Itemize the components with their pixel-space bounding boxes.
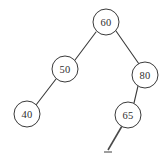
node-label-80: 80 [140, 70, 151, 81]
tree-canvas: 60 50 80 40 65 [0, 0, 167, 163]
edge-80-to-65 [134, 86, 138, 103]
node-label-40: 40 [22, 109, 33, 120]
edge-50-to-40 [36, 79, 56, 105]
node-80[interactable]: 80 [132, 62, 158, 88]
edge-group [36, 31, 139, 152]
node-label-50: 50 [60, 64, 71, 75]
edge-60-to-50 [75, 32, 96, 60]
node-65[interactable]: 65 [115, 102, 141, 128]
node-label-60: 60 [101, 17, 112, 28]
edge-65-dangling [108, 126, 122, 150]
node-50[interactable]: 50 [52, 56, 78, 82]
node-40[interactable]: 40 [14, 101, 40, 127]
edge-60-to-80 [116, 31, 139, 64]
binary-search-tree-figure: 60 50 80 40 65 [0, 0, 167, 163]
node-60[interactable]: 60 [93, 9, 119, 35]
node-label-65: 65 [123, 110, 134, 121]
